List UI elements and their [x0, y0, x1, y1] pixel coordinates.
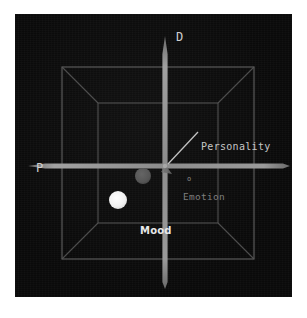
pad-space-scene — [15, 14, 292, 297]
dominance-axis — [162, 36, 167, 289]
plot-panel: D P Personality Emotion Mood o — [15, 14, 292, 297]
personality-point — [163, 164, 167, 168]
emotion-point — [135, 168, 151, 184]
personality-leader-line — [168, 132, 198, 164]
mood-point — [109, 191, 127, 209]
cube-connecting-edges — [62, 67, 254, 259]
figure-container: D P Personality Emotion Mood o — [0, 0, 307, 318]
pleasure-axis — [28, 163, 290, 168]
